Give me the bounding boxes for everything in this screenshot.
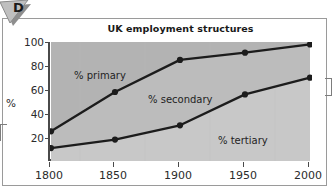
x-tick-dash-1850 (113, 162, 114, 167)
y-tick-label-60: 60 (14, 85, 44, 96)
y-tick-label-20: 20 (14, 133, 44, 144)
x-tick-dash-2000 (308, 162, 309, 167)
y-tick-label-40: 40 (14, 109, 44, 120)
x-tick-dash-1800 (49, 162, 50, 167)
band-label-primary: % primary (74, 70, 126, 81)
figure-panel: D UK employment structures % 100 80 60 4… (0, 0, 333, 192)
x-tick-label-1850: 1850 (90, 170, 136, 182)
x-tick-label-2000: 2000 (285, 170, 331, 182)
x-tick-dash-1900 (178, 162, 179, 167)
y-tick-label-80: 80 (14, 61, 44, 72)
x-tick-label-1900: 1900 (155, 170, 201, 182)
x-tick-label-1800: 1800 (26, 170, 72, 182)
plot-area: % primary % secondary % tertiary (48, 42, 310, 161)
plot-wrapper: 100 80 60 40 20 (0, 0, 333, 192)
x-tick-dash-1950 (243, 162, 244, 167)
y-tick-label-100: 100 (14, 37, 44, 48)
band-label-tertiary: % tertiary (218, 135, 268, 146)
band-label-secondary: % secondary (148, 94, 213, 105)
x-tick-label-1950: 1950 (220, 170, 266, 182)
